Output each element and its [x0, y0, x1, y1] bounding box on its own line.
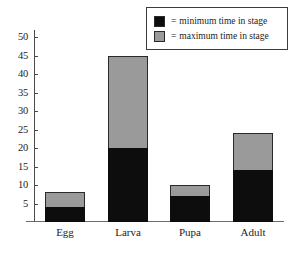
legend-swatch-minimum-icon	[154, 16, 165, 27]
legend-separator-maximum: =	[171, 31, 176, 41]
y-axis-tick-label: 50	[6, 32, 28, 42]
bar-larva	[108, 56, 148, 222]
bar-adult	[233, 133, 273, 222]
legend-label-minimum: minimum time in stage	[179, 16, 267, 27]
y-axis-tick-label: 40	[6, 69, 28, 79]
y-axis-tick-label: 30	[6, 106, 28, 116]
legend-item-minimum: = minimum time in stage	[154, 14, 281, 28]
y-axis-tick-label: 45	[6, 51, 28, 61]
bar-pupa	[170, 185, 210, 222]
legend-label-maximum: maximum time in stage	[179, 31, 268, 42]
stacked-bar-chart: 5101520253035404550 EggLarvaPupaAdult = …	[0, 0, 293, 259]
bar-segment-minimum	[45, 207, 85, 222]
bar-segment-minimum	[108, 148, 148, 222]
x-axis-label-adult: Adult	[213, 226, 293, 238]
legend-separator-minimum: =	[171, 16, 176, 26]
y-axis-tick-label: 25	[6, 125, 28, 135]
y-axis-tick-label: 10	[6, 180, 28, 190]
y-axis-tick-label: 35	[6, 88, 28, 98]
y-axis-tick-label: 15	[6, 162, 28, 172]
bar-segment-minimum	[170, 196, 210, 222]
legend-swatch-maximum-icon	[154, 31, 165, 42]
y-axis-tick-label: 20	[6, 143, 28, 153]
bar-egg	[45, 192, 85, 222]
y-axis-tick-label: 5	[6, 199, 28, 209]
chart-legend: = minimum time in stage = maximum time i…	[146, 7, 288, 50]
bar-group	[34, 30, 284, 222]
bar-segment-minimum	[233, 170, 273, 222]
legend-item-maximum: = maximum time in stage	[154, 29, 281, 43]
